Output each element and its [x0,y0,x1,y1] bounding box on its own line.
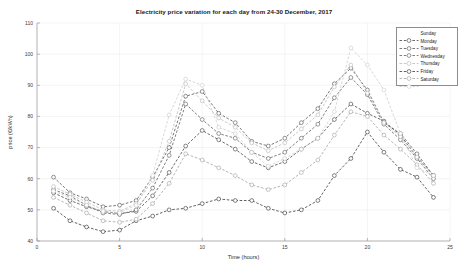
data-point-marker [266,188,270,192]
data-point-marker [52,189,56,193]
legend-item-saturday[interactable]: Saturday [399,76,454,84]
data-point-marker [399,167,403,171]
legend-item-monday[interactable]: Monday [399,38,454,46]
data-point-marker [432,196,436,200]
data-point-marker [316,158,320,162]
legend-label: Saturday [419,76,439,84]
data-point-marker [316,113,320,117]
data-point-marker [233,147,237,151]
data-point-marker [52,175,56,179]
data-point-marker [266,206,270,210]
data-point-marker [316,136,320,140]
data-point-marker [85,203,89,207]
legend-item-friday[interactable]: Friday [399,68,454,76]
data-point-marker [151,214,155,218]
data-point-marker [332,110,336,114]
legend-item-wednesday[interactable]: Wednesday [399,53,454,61]
data-point-marker [151,178,155,182]
y-tick-label: 100 [25,51,34,57]
data-point-marker [316,199,320,203]
chart-figure: Electricity price variation for each day… [0,0,468,269]
data-point-marker [299,147,303,151]
data-point-marker [101,210,105,214]
data-point-marker [184,94,188,98]
data-point-marker [217,111,221,115]
x-tick-label: 25 [447,244,453,250]
data-point-marker [85,211,89,215]
legend-swatch-icon [399,53,419,60]
legend-swatch-icon [399,45,419,52]
data-point-marker [200,99,204,103]
y-tick-label: 50 [27,207,33,213]
data-point-marker [167,146,171,150]
data-point-marker [283,183,287,187]
legend-item-tuesday[interactable]: Tuesday [399,45,454,53]
data-point-marker [266,149,270,153]
data-point-marker [415,175,419,179]
x-tick-label: 15 [282,244,288,250]
data-point-marker [167,153,171,157]
y-axis-title: price (€/kWh) [7,115,13,148]
data-point-marker [349,46,353,50]
y-tick-label: 60 [27,176,33,182]
data-point-marker [415,166,419,170]
data-point-marker [134,208,138,212]
data-point-marker [200,158,204,162]
data-point-marker [68,203,72,207]
data-point-marker [332,96,336,100]
legend-label: Wednesday [419,53,445,61]
data-point-marker [299,171,303,175]
x-tick-label: 20 [365,244,371,250]
data-point-marker [366,63,370,67]
data-point-marker [382,133,386,137]
data-point-marker [167,171,171,175]
data-point-marker [85,225,89,229]
data-point-marker [68,219,72,223]
data-point-marker [233,199,237,203]
legend-swatch-icon [399,30,419,37]
legend-swatch-icon [399,61,419,68]
legend-item-sunday[interactable]: Sunday [399,30,454,38]
y-tick-label: 40 [27,238,33,244]
data-point-marker [283,136,287,140]
data-point-marker [332,118,336,122]
data-point-marker [299,208,303,212]
data-point-marker [118,220,122,224]
y-tick-label: 80 [27,113,33,119]
data-point-marker [200,202,204,206]
data-point-marker [399,147,403,151]
data-point-marker [316,107,320,111]
data-point-marker [52,196,56,200]
data-point-marker [250,150,254,154]
data-point-marker [283,141,287,145]
legend-label: Friday [419,68,433,76]
data-point-marker [233,121,237,125]
data-point-marker [167,181,171,185]
data-point-marker [200,90,204,94]
data-point-marker [200,83,204,87]
data-point-marker [184,206,188,210]
legend-swatch-icon [399,38,419,45]
legend-label: Tuesday [419,45,438,53]
data-point-marker [184,77,188,81]
legend-item-thursday[interactable]: Thursday [399,60,454,68]
data-point-marker [332,174,336,178]
data-point-marker [250,183,254,187]
data-point-marker [316,122,320,126]
data-point-marker [366,115,370,119]
data-point-marker [233,132,237,136]
chart-legend[interactable]: SundayMondayTuesdayWednesdayThursdayFrid… [396,27,458,86]
y-tick-label: 90 [27,82,33,88]
data-point-marker [382,121,386,125]
data-point-marker [217,125,221,129]
data-point-marker [299,121,303,125]
data-point-marker [266,144,270,148]
x-tick-label: 10 [199,244,205,250]
data-point-marker [250,141,254,145]
legend-label: Monday [419,38,437,46]
data-point-marker [167,208,171,212]
data-point-marker [250,160,254,164]
data-point-marker [233,125,237,129]
data-point-marker [134,217,138,221]
data-point-marker [415,155,419,159]
